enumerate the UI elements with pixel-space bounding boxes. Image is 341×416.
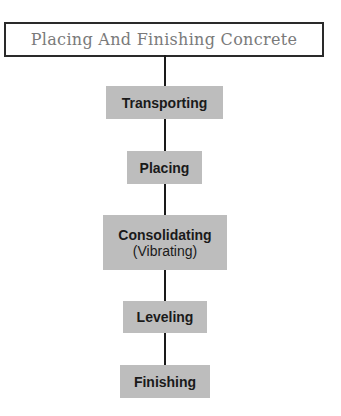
step-consolidating: Consolidating (Vibrating) — [103, 215, 227, 270]
diagram-title-box: Placing And Finishing Concrete — [4, 22, 324, 57]
step-finishing: Finishing — [120, 365, 210, 398]
step-label: Leveling — [137, 309, 194, 325]
connector-line — [164, 270, 166, 301]
step-leveling: Leveling — [123, 301, 207, 333]
step-label: Finishing — [134, 374, 196, 390]
connector-line — [164, 119, 166, 151]
diagram-title: Placing And Finishing Concrete — [31, 30, 297, 49]
step-placing: Placing — [127, 151, 202, 184]
step-label: Consolidating — [118, 227, 211, 243]
step-sublabel: (Vibrating) — [133, 243, 197, 259]
connector-line — [164, 55, 166, 86]
step-label: Transporting — [122, 95, 208, 111]
connector-line — [164, 184, 166, 215]
connector-line — [164, 333, 166, 365]
step-label: Placing — [140, 160, 190, 176]
step-transporting: Transporting — [106, 86, 223, 119]
